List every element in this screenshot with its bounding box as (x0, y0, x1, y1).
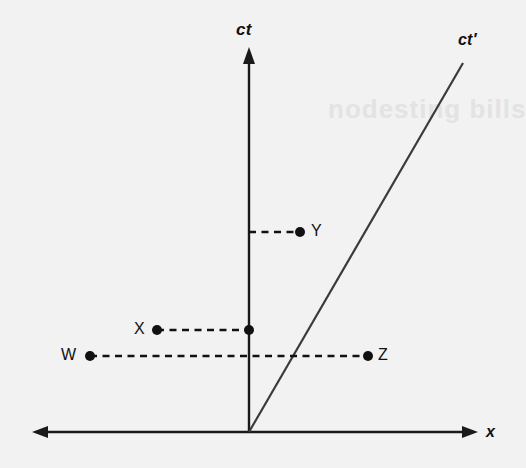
event-dot-Z (363, 351, 373, 361)
ct-prime-line (249, 63, 463, 432)
event-label-Y: Y (311, 222, 322, 240)
event-label-X: X (134, 320, 145, 338)
event-dot-X (152, 325, 162, 335)
spacetime-diagram: nodesting bills ct ct′ x Y X W Z (0, 0, 526, 468)
x-axis-left-arrowhead (32, 426, 48, 438)
event-dot-W (85, 351, 95, 361)
ct-axis-arrowhead (243, 47, 255, 64)
ct-prime-label: ct′ (458, 31, 477, 49)
event-label-W: W (61, 346, 76, 364)
x-axis-label: x (486, 423, 495, 441)
diagram-canvas (0, 0, 526, 468)
event-dot-x-on-axis (244, 325, 254, 335)
event-dot-Y (295, 227, 305, 237)
event-label-Z: Z (378, 346, 388, 364)
ct-axis-label: ct (236, 20, 252, 40)
x-axis-right-arrowhead (462, 426, 478, 438)
